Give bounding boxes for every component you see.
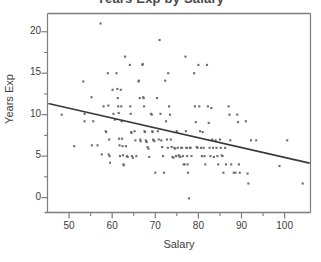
data-point [169, 114, 171, 116]
data-point [129, 105, 131, 107]
axis-ticks [42, 32, 285, 219]
data-point [119, 155, 121, 157]
data-point [193, 72, 195, 74]
data-point [225, 163, 227, 165]
data-point [203, 147, 205, 149]
data-point [108, 138, 110, 140]
data-point [90, 96, 92, 98]
data-point [201, 155, 203, 157]
data-point [222, 155, 224, 157]
data-point [237, 121, 239, 123]
data-point [138, 80, 140, 82]
data-point [184, 56, 186, 58]
data-point [302, 182, 304, 184]
data-point [143, 105, 145, 107]
data-point [170, 138, 172, 140]
data-point [134, 139, 136, 141]
data-point [194, 105, 196, 107]
data-point [199, 130, 201, 132]
data-point [210, 107, 212, 109]
data-point [109, 155, 111, 157]
data-point [101, 153, 103, 155]
data-point [224, 147, 226, 149]
data-point [139, 97, 141, 99]
data-point [159, 113, 161, 115]
data-point [168, 105, 170, 107]
data-point [116, 88, 118, 90]
data-point [143, 97, 145, 99]
data-point [239, 172, 241, 174]
data-point [120, 89, 122, 91]
data-point [190, 147, 192, 149]
data-point [245, 120, 247, 122]
data-point [140, 140, 142, 142]
data-point [99, 22, 101, 24]
data-point [163, 172, 165, 174]
data-point [112, 89, 114, 91]
data-point [175, 155, 177, 157]
data-point [117, 105, 119, 107]
data-point [134, 130, 136, 132]
data-point [118, 112, 120, 114]
data-point [204, 163, 206, 165]
data-point [153, 140, 155, 142]
data-point [132, 157, 134, 159]
data-point [186, 155, 188, 157]
data-point [228, 114, 230, 116]
data-point [222, 172, 224, 174]
data-point [148, 156, 150, 158]
data-point [91, 144, 93, 146]
data-point [129, 64, 131, 66]
data-point [167, 147, 169, 149]
data-point [186, 147, 188, 149]
data-point [185, 130, 187, 132]
data-point [207, 105, 209, 107]
data-point [162, 155, 164, 157]
data-point [84, 113, 86, 115]
data-point [247, 182, 249, 184]
data-point [82, 80, 84, 82]
data-point [120, 105, 122, 107]
data-point [115, 72, 117, 74]
data-point [229, 139, 231, 141]
data-point [188, 197, 190, 199]
data-point [195, 121, 197, 123]
data-point [203, 155, 205, 157]
data-point [151, 114, 153, 116]
data-point [125, 145, 127, 147]
scatter-plot-canvas [0, 0, 321, 262]
data-point [92, 120, 94, 122]
data-points [61, 22, 304, 199]
data-point [167, 72, 169, 74]
data-point [158, 138, 160, 140]
data-point [122, 154, 124, 156]
data-point [206, 64, 208, 66]
data-point [196, 147, 198, 149]
data-point [135, 155, 137, 157]
data-point [124, 56, 126, 58]
data-point [107, 104, 109, 106]
data-point [147, 148, 149, 150]
data-point [220, 147, 222, 149]
data-point [213, 156, 215, 158]
data-point [250, 139, 252, 141]
data-point [146, 141, 148, 143]
data-point [238, 163, 240, 165]
data-point [219, 138, 221, 140]
data-point [174, 148, 176, 150]
data-point [171, 146, 173, 148]
data-point [118, 144, 120, 146]
data-point [216, 155, 218, 157]
chart-container: Years Exp by Salary Years Exp 05101520 5… [0, 0, 321, 262]
data-point [198, 105, 200, 107]
data-point [286, 139, 288, 141]
data-point [127, 156, 129, 158]
data-point [236, 114, 238, 116]
data-point [73, 145, 75, 147]
data-point [121, 138, 123, 140]
data-point [142, 63, 144, 65]
data-point [107, 72, 109, 74]
data-point [154, 172, 156, 174]
data-point [118, 138, 120, 140]
data-point [190, 155, 192, 157]
